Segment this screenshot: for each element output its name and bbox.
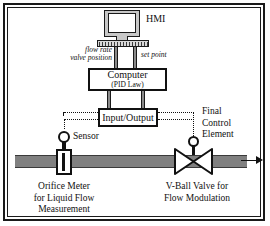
hmi-label: HMI [146, 13, 165, 24]
valve-signal-drop [193, 112, 194, 136]
final-control-element-label: Final Control Element [202, 106, 234, 141]
valve-caption-line-2: Flow Modulation [148, 193, 246, 205]
fce-label-line-1: Final [202, 106, 234, 118]
signal-label-valve-position: valve position [46, 53, 112, 62]
input-output-title: Input/Output [102, 112, 154, 123]
sensor-label: Sensor [73, 131, 99, 141]
io-to-valve-line-top [158, 112, 194, 113]
computer-block: Computer (PID Law) [88, 68, 167, 91]
io-to-sensor-line-bottom [64, 119, 98, 120]
signal-label-set-point: set point [141, 50, 167, 59]
io-to-valve-line-bottom [158, 119, 194, 120]
process-control-diagram: HMI flow rate valve position set point C… [0, 0, 270, 226]
orifice-caption-line-1: Orifice Meter [18, 181, 110, 193]
fce-label-line-3: Element [202, 129, 234, 141]
io-to-sensor-bracket [63, 112, 64, 116]
computer-subtitle: (PID Law) [111, 81, 143, 89]
flow-direction-arrow-head [256, 156, 263, 164]
hmi-to-computer-link-left [114, 47, 118, 69]
io-to-sensor-line-top [64, 112, 98, 113]
fce-label-line-2: Control [202, 118, 234, 130]
input-output-block: Input/Output [98, 108, 158, 127]
computer-to-io-link-left [107, 91, 111, 108]
orifice-caption-line-2: for Liquid Flow [18, 193, 110, 205]
computer-to-io-link-right [141, 91, 145, 108]
hmi-to-computer-link-right [133, 47, 137, 69]
orifice-caption: Orifice Meter for Liquid Flow Measuremen… [18, 181, 110, 216]
computer-title: Computer [108, 70, 148, 80]
monitor-screen [108, 13, 136, 33]
sensor-signal-drop [64, 119, 65, 129]
orifice-caption-line-3: Measurement [18, 204, 110, 216]
valve-caption-line-1: V-Ball Valve for [148, 181, 246, 193]
valve-caption: V-Ball Valve for Flow Modulation [148, 181, 246, 204]
orifice-plate [62, 153, 65, 171]
v-ball-valve-icon [174, 148, 213, 175]
